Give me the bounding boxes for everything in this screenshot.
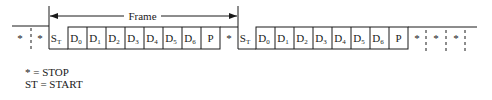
parity-bit: P <box>395 32 401 44</box>
legend: * = STOP ST = START <box>25 66 83 90</box>
data-bit: D2 <box>108 32 120 46</box>
data-bit: D3 <box>127 32 139 46</box>
stop-symbol: * <box>37 32 43 44</box>
parity-bit: P <box>207 32 213 44</box>
data-bit: D1 <box>277 32 289 46</box>
data-bit: D5 <box>165 32 177 46</box>
stop-symbol: * <box>17 32 23 44</box>
legend-start: ST = START <box>25 78 83 90</box>
data-bit: D6 <box>184 32 196 46</box>
stop-symbol: * <box>226 32 232 44</box>
data-bit: D4 <box>334 32 346 46</box>
start-bit: ST <box>51 32 62 46</box>
stop-symbol: * <box>453 32 459 44</box>
frame-label: Frame <box>128 10 156 22</box>
start-bit: ST <box>240 32 251 46</box>
data-bit: D5 <box>353 32 365 46</box>
data-bit: D1 <box>89 32 101 46</box>
data-bit: D4 <box>146 32 158 46</box>
data-bit: D2 <box>296 32 308 46</box>
legend-stop: * = STOP <box>25 66 83 78</box>
data-bit: D3 <box>315 32 327 46</box>
stop-symbol: * <box>433 32 439 44</box>
data-bit: D6 <box>372 32 384 46</box>
arrow-right-icon <box>229 13 237 19</box>
data-bit: D0 <box>70 32 82 46</box>
stop-symbol: * <box>414 32 420 44</box>
arrow-left-icon <box>50 13 58 19</box>
data-bit: D0 <box>258 32 270 46</box>
